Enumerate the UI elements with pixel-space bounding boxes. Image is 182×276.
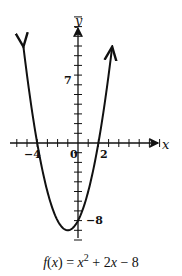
x-tick-label-neg4: −4 — [24, 149, 41, 160]
y-tick-label-neg8: −8 — [86, 215, 103, 226]
y-axis-label: y — [75, 14, 82, 27]
function-equation-caption: f(x) = x2 + 2x − 8 — [0, 252, 182, 271]
x-tick-label-2: 2 — [100, 149, 108, 160]
function-graph — [0, 0, 182, 276]
x-axis-label: x — [162, 138, 169, 151]
y-tick-label-7: 7 — [64, 75, 72, 86]
x-tick-label-0: 0 — [70, 149, 78, 160]
